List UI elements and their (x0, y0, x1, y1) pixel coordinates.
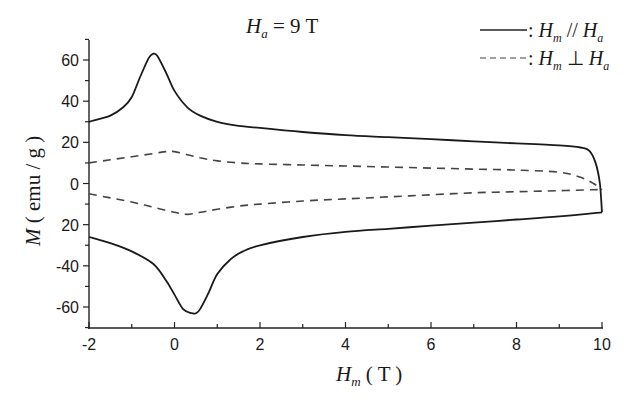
series-line-perpendicular-3 (89, 190, 602, 215)
y-tick-label: 20 (61, 134, 79, 151)
x-tick-label: 6 (427, 336, 436, 353)
x-tick-label: 8 (512, 336, 521, 353)
chart-canvas: Ha = 9 T : Hm // Ha : Hm ⊥ Ha -202468106… (0, 0, 629, 401)
data-series (89, 54, 602, 314)
y-tick-label: 40 (61, 93, 79, 110)
x-tick-label: -2 (82, 336, 96, 353)
series-line-parallel-1 (89, 212, 602, 313)
axis-ticks (83, 39, 602, 328)
x-tick-label: 0 (170, 336, 179, 353)
x-tick-label: 4 (341, 336, 350, 353)
x-tick-label: 2 (256, 336, 265, 353)
axis-tick-labels: -20246810604020020-40-60 (56, 52, 611, 353)
y-tick-label: 60 (61, 52, 79, 69)
legend-entry-parallel: : Hm // Ha (528, 19, 603, 45)
y-tick-label: 0 (70, 176, 79, 193)
x-tick-label: 10 (593, 336, 611, 353)
y-axis-label: M ( emu / g ) (21, 136, 45, 247)
series-line-parallel-0 (89, 54, 602, 213)
field-annotation: Ha = 9 T (245, 14, 318, 41)
y-tick-label: -60 (56, 299, 79, 316)
y-tick-label: 20 (61, 217, 79, 234)
series-line-perpendicular-2 (89, 151, 602, 189)
x-axis-label: Hm ( T ) (335, 362, 402, 389)
legend-entry-perpendicular: : Hm ⊥ Ha (528, 47, 609, 73)
y-tick-label: -40 (56, 258, 79, 275)
legend: : Hm // Ha : Hm ⊥ Ha (480, 19, 609, 73)
